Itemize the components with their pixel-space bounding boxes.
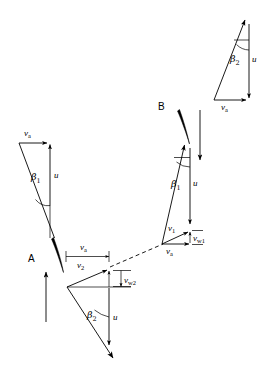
station-label-a: A: [28, 253, 35, 264]
label-beta1-a: β1: [30, 171, 41, 185]
dashed-flow-connector: [110, 244, 163, 267]
label-va-a2: va: [80, 242, 87, 253]
diagram-canvas: va β1 u A va v2 vw2 u β2 B β1 u va: [0, 0, 273, 379]
relative-velocity-line-a1: [19, 143, 55, 238]
label-va-b2: va: [221, 102, 228, 113]
vector-v2-a2: [67, 270, 107, 287]
angle-arc-beta2-b: [237, 45, 250, 51]
relative-velocity-line-a2: [67, 287, 113, 358]
label-beta2-b: β2: [229, 53, 240, 67]
label-u-b1: u: [193, 178, 198, 188]
label-vw2: vw2: [124, 275, 136, 286]
label-vw1: vw1: [193, 233, 205, 244]
label-beta2-a: β2: [86, 309, 97, 323]
angle-arc-beta1-b: [177, 162, 191, 167]
blade-a: [52, 238, 64, 273]
label-beta1-b: β1: [170, 178, 181, 192]
label-u-b2: u: [252, 54, 257, 64]
angle-arc-beta1-a: [36, 200, 51, 206]
label-v2-a2: v2: [77, 260, 84, 271]
angle-arc-beta2-a: [95, 310, 110, 317]
label-u-a1: u: [54, 170, 59, 180]
label-u-a2: u: [113, 312, 118, 322]
blade-b: [178, 110, 190, 145]
label-va-a1: va: [24, 128, 31, 139]
velocity-triangle-diagram: va β1 u A va v2 vw2 u β2 B β1 u va: [0, 0, 273, 379]
station-label-b: B: [158, 101, 165, 112]
label-v1-b1: v1: [168, 223, 175, 234]
label-va-b1: va: [166, 246, 173, 257]
